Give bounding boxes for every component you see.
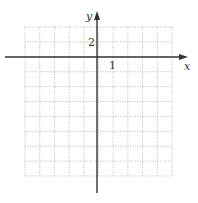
y-tick-label: 2	[88, 36, 95, 49]
x-tick-label: 1	[109, 59, 116, 72]
x-axis-label: x	[184, 60, 191, 73]
grid	[25, 27, 172, 176]
coordinate-plane: y x 2 1	[0, 0, 198, 203]
y-axis-label: y	[85, 10, 93, 23]
y-axis-arrow-icon	[94, 11, 100, 20]
